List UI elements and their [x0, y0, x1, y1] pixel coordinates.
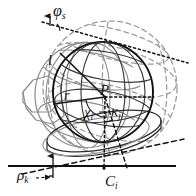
label-rho-k-subscript: k: [24, 175, 28, 185]
label-phi-s-symbol: φ: [53, 2, 62, 19]
label-chi-i: χi: [84, 105, 93, 122]
point-C-marker: [102, 166, 105, 169]
vertical-drop-line: [104, 97, 105, 169]
rho-leader-line: [36, 177, 50, 178]
label-C-i: Ci: [105, 174, 118, 191]
label-P-symbol: P: [100, 82, 109, 98]
label-l-symbol: l: [48, 53, 52, 68]
geometry-diagram: φs l r P χi κj ρk Ci: [0, 0, 196, 196]
label-kappa-j: κj: [111, 104, 121, 121]
diagram-canvas: [0, 0, 196, 196]
label-r-symbol: r: [64, 88, 69, 103]
label-chi-i-symbol: χ: [84, 104, 91, 120]
label-C-i-subscript: i: [115, 181, 118, 191]
label-P: P: [100, 83, 109, 98]
label-kappa-j-subscript: j: [118, 111, 121, 121]
label-phi-s: φs: [53, 3, 66, 21]
label-r: r: [64, 89, 69, 103]
label-chi-i-subscript: i: [91, 112, 94, 122]
label-C-i-symbol: C: [105, 173, 115, 189]
phi-angle-arc: [57, 24, 60, 31]
label-l: l: [48, 54, 52, 68]
label-phi-s-subscript: s: [62, 10, 66, 21]
label-rho-k: ρk: [17, 168, 28, 185]
